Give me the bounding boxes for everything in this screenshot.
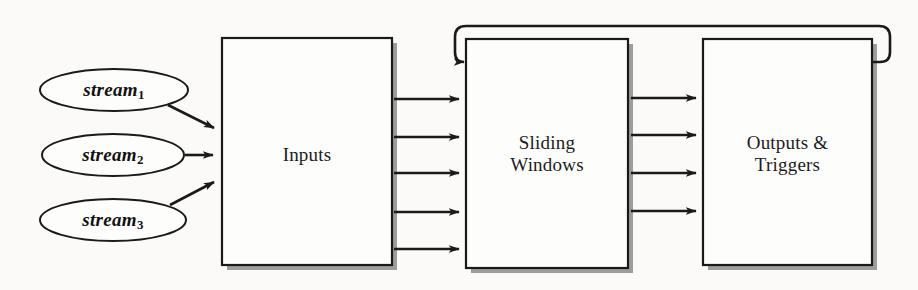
stream-1-arrow — [168, 105, 214, 128]
stream-ellipses — [40, 69, 188, 241]
stream-2-ellipse — [42, 134, 184, 176]
process-boxes — [222, 38, 872, 268]
stream-3-ellipse — [40, 199, 186, 241]
stream-1-ellipse — [40, 69, 188, 111]
diagram-canvas: stream1 stream2 stream3 Inputs Sliding W… — [0, 0, 918, 290]
stream-3-arrow — [170, 182, 214, 205]
diagram-graphics — [0, 0, 918, 290]
windows-to-outputs-arrows — [631, 98, 696, 211]
box-inputs-rect — [222, 38, 392, 265]
inputs-to-windows-arrows — [394, 99, 459, 249]
box-outputs-triggers-rect — [703, 39, 872, 265]
box-sliding-windows-rect — [466, 39, 628, 268]
